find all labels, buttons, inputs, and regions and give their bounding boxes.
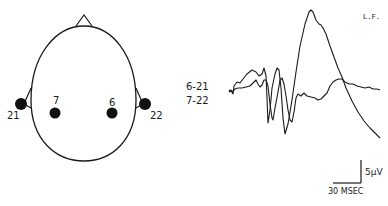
electrode-22 xyxy=(139,98,151,110)
trace-7-22 xyxy=(229,78,380,122)
condition-label: L.F. xyxy=(363,14,380,21)
electrode-label-21: 21 xyxy=(7,111,20,121)
electrode-21 xyxy=(15,98,27,110)
scale-label-time: 30 MSEC xyxy=(328,188,363,196)
electrode-label-6: 6 xyxy=(109,98,115,108)
trace-6-21 xyxy=(229,10,380,138)
scale-label-voltage: 5µV xyxy=(365,168,383,177)
electrode-6 xyxy=(107,108,118,119)
electrode-7 xyxy=(50,108,61,119)
head-outline xyxy=(31,26,136,161)
electrode-label-22: 22 xyxy=(150,111,163,121)
electrode-label-7: 7 xyxy=(53,96,59,106)
nose-icon xyxy=(76,15,92,26)
trace-label-7-22: 7-22 xyxy=(186,96,209,106)
trace-label-6-21: 6-21 xyxy=(186,82,209,92)
